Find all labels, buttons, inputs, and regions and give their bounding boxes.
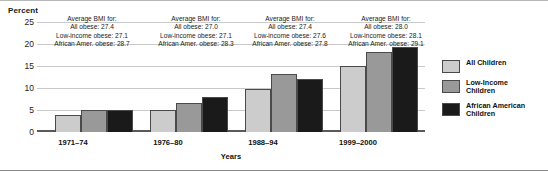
bar-chart-figure: Percent 25 20 15 10 5 0 Average BMI for:… xyxy=(0,0,548,171)
annotation-line-1: Average BMI for: xyxy=(240,15,340,23)
bar-1988-94-series-1 xyxy=(245,89,271,132)
bar-1971-74-series-2 xyxy=(81,110,107,132)
annotation-line-2: All obese: 28.0 xyxy=(336,23,436,31)
annotation-line-2: All obese: 27.4 xyxy=(240,23,340,31)
annotation-line-4: African Amer. obese: 28.3 xyxy=(146,40,246,48)
annotation-line-4: African Amer. obese: 27.8 xyxy=(240,40,340,48)
annotation-line-3: Low-income obese: 27.1 xyxy=(146,32,246,40)
legend-swatch-icon xyxy=(442,103,460,116)
annotation-1988-94: Average BMI for: All obese: 27.4 Low-inc… xyxy=(240,15,340,49)
annotation-1976-80: Average BMI for: All obese: 27.0 Low-inc… xyxy=(146,15,246,49)
bar-1999-2000-series-1 xyxy=(340,66,366,132)
annotation-line-2: All obese: 27.4 xyxy=(42,23,142,31)
legend-swatch-icon xyxy=(442,60,460,73)
bar-1971-74-series-3 xyxy=(107,110,133,132)
annotation-line-1: Average BMI for: xyxy=(42,15,142,23)
y-tick-15: 15 xyxy=(4,61,34,71)
y-tick-0: 0 xyxy=(4,127,34,137)
x-tick-1988-94: 1988–94 xyxy=(218,138,308,147)
legend-item-low-income-children: Low-Income Children xyxy=(442,79,542,96)
bar-1988-94-series-3 xyxy=(297,79,323,132)
bar-1999-2000-series-2 xyxy=(366,52,392,132)
y-tick-5: 5 xyxy=(4,105,34,115)
y-axis-tick-labels: 25 20 15 10 5 0 xyxy=(0,22,34,132)
x-tick-1971-74: 1971–74 xyxy=(28,138,118,147)
annotation-line-4: African Amer. obese: 29.1 xyxy=(336,40,436,48)
bar-1976-80-series-1 xyxy=(150,110,176,132)
legend-label: Low-Income Children xyxy=(466,79,508,96)
annotation-line-1: Average BMI for: xyxy=(146,15,246,23)
annotation-line-4: African Amer. obese: 28.7 xyxy=(42,40,142,48)
y-axis-title: Percent xyxy=(8,6,38,15)
bar-1971-74-series-1 xyxy=(55,115,81,132)
legend-item-african-american-children: African American Children xyxy=(442,102,542,119)
annotation-line-2: All obese: 27.0 xyxy=(146,23,246,31)
annotation-line-3: Low-income obese: 27.1 xyxy=(42,32,142,40)
annotation-line-1: Average BMI for: xyxy=(336,15,436,23)
annotation-line-3: Low-income obese: 27.6 xyxy=(240,32,340,40)
bar-1976-80-series-3 xyxy=(202,97,228,132)
bar-1988-94-series-2 xyxy=(271,74,297,132)
legend-label: African American Children xyxy=(466,102,525,119)
bar-1976-80-series-2 xyxy=(176,103,202,132)
annotation-line-3: Low-income obese: 28.1 xyxy=(336,32,436,40)
annotation-1971-74: Average BMI for: All obese: 27.4 Low-inc… xyxy=(42,15,142,49)
bar-1999-2000-series-3 xyxy=(392,47,418,132)
y-tick-20: 20 xyxy=(4,39,34,49)
y-tick-25: 25 xyxy=(4,17,34,27)
chart-legend: All Children Low-Income Children African… xyxy=(442,59,542,125)
y-tick-10: 10 xyxy=(4,83,34,93)
annotation-1999-2000: Average BMI for: All obese: 28.0 Low-inc… xyxy=(336,15,436,49)
legend-item-all-children: All Children xyxy=(442,59,542,73)
x-tick-1976-80: 1976–80 xyxy=(123,138,213,147)
x-axis-title: Years xyxy=(37,152,425,161)
legend-label: All Children xyxy=(466,59,506,67)
x-tick-1999-2000: 1999–2000 xyxy=(313,138,403,147)
legend-swatch-icon xyxy=(442,80,460,93)
